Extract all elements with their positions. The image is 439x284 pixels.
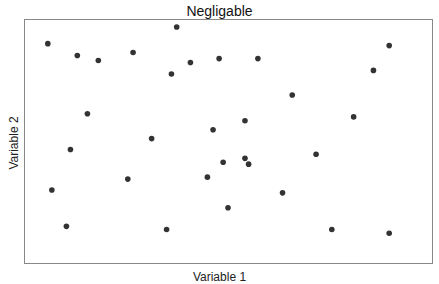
- data-point: [255, 56, 261, 62]
- data-point: [130, 50, 136, 56]
- data-point: [85, 111, 91, 117]
- data-point: [45, 41, 51, 47]
- data-point: [313, 151, 319, 157]
- data-point: [64, 224, 70, 230]
- data-point: [96, 58, 102, 64]
- data-point: [125, 176, 131, 182]
- data-point: [205, 174, 211, 180]
- data-point: [164, 227, 170, 233]
- data-point: [149, 136, 155, 142]
- data-point: [386, 43, 392, 49]
- data-point: [210, 127, 216, 133]
- data-point: [225, 205, 231, 211]
- data-point: [174, 24, 180, 30]
- data-point: [351, 114, 357, 120]
- data-point: [49, 187, 55, 193]
- data-point: [386, 231, 392, 237]
- data-point: [75, 53, 81, 59]
- data-point: [280, 190, 286, 196]
- data-point: [329, 227, 335, 233]
- data-point: [216, 56, 222, 62]
- data-point: [371, 68, 377, 74]
- data-point: [220, 159, 226, 165]
- data-point: [246, 161, 252, 167]
- data-point: [289, 92, 295, 98]
- data-point: [188, 60, 194, 66]
- data-points: [45, 24, 392, 236]
- data-point: [169, 71, 175, 77]
- data-point: [242, 156, 248, 162]
- data-point: [242, 118, 248, 124]
- plot-frame: [25, 20, 433, 264]
- data-point: [68, 147, 74, 153]
